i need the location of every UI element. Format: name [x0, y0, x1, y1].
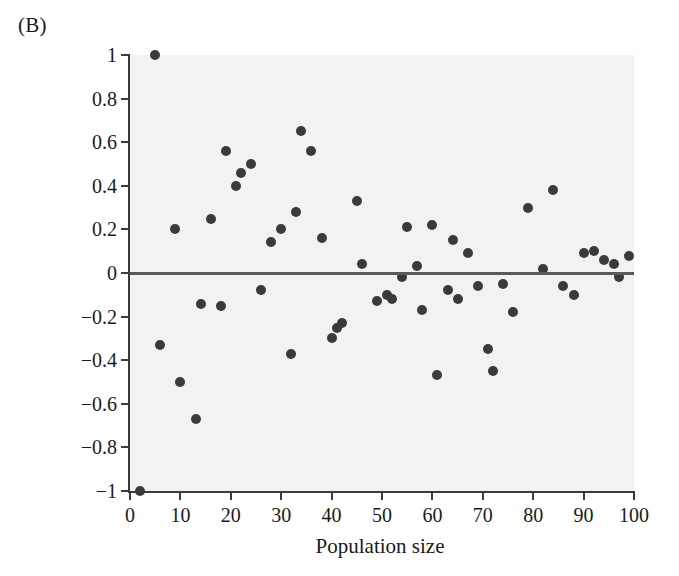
scatter-point [579, 248, 589, 258]
x-axis-tick [532, 491, 534, 500]
scatter-point [352, 196, 362, 206]
scatter-point [256, 285, 266, 295]
x-axis-tick-label: 30 [271, 504, 291, 527]
y-axis-tick-label: 0 [107, 262, 117, 285]
x-axis-tick-label: 50 [372, 504, 392, 527]
scatter-point [387, 294, 397, 304]
y-axis-tick-label: 0.6 [92, 131, 117, 154]
scatter-point [135, 486, 145, 496]
panel-label: (B) [18, 13, 47, 38]
y-axis-tick-label: −0.8 [81, 436, 117, 459]
scatter-point [443, 285, 453, 295]
x-axis-tick [583, 491, 585, 500]
y-axis-tick [121, 185, 130, 187]
x-axis-tick-label: 10 [170, 504, 190, 527]
scatter-point [175, 377, 185, 387]
scatter-point [231, 181, 241, 191]
scatter-point [196, 299, 206, 309]
scatter-point [427, 220, 437, 230]
y-axis-tick-label: −0.6 [81, 392, 117, 415]
scatter-point [306, 146, 316, 156]
scatter-point [266, 237, 276, 247]
scatter-point [483, 344, 493, 354]
plot-area: −1−0.8−0.6−0.4−0.200.20.40.60.8101020304… [128, 55, 634, 493]
scatter-point [402, 222, 412, 232]
x-axis-tick-label: 70 [473, 504, 493, 527]
y-axis-tick [121, 54, 130, 56]
scatter-point [372, 296, 382, 306]
scatter-point [155, 340, 165, 350]
scatter-point [558, 281, 568, 291]
scatter-point [291, 207, 301, 217]
y-axis-tick [121, 141, 130, 143]
y-axis-tick [121, 228, 130, 230]
scatter-point [236, 168, 246, 178]
x-axis-tick-label: 60 [422, 504, 442, 527]
scatter-point [417, 305, 427, 315]
y-axis-tick [121, 446, 130, 448]
scatter-point [276, 224, 286, 234]
scatter-point [589, 246, 599, 256]
scatter-point [523, 203, 533, 213]
scatter-point [453, 294, 463, 304]
x-axis-tick-label: 20 [221, 504, 241, 527]
scatter-point [191, 414, 201, 424]
y-axis-tick [121, 272, 130, 274]
y-axis-tick [121, 98, 130, 100]
scatter-point [412, 261, 422, 271]
scatter-point [327, 333, 337, 343]
y-axis-tick-label: 0.8 [92, 87, 117, 110]
y-axis-tick-label: −0.2 [81, 305, 117, 328]
scatter-point [246, 159, 256, 169]
x-axis-tick [179, 491, 181, 500]
scatter-point [296, 126, 306, 136]
x-axis-tick [633, 491, 635, 500]
scatter-point [599, 255, 609, 265]
scatter-point [498, 279, 508, 289]
y-axis-tick [121, 403, 130, 405]
x-axis-tick-label: 80 [523, 504, 543, 527]
scatter-point [357, 259, 367, 269]
x-axis-tick-label: 0 [125, 504, 135, 527]
y-axis-tick-label: 0.2 [92, 218, 117, 241]
y-axis-tick-label: −1 [96, 480, 117, 503]
zero-reference-line [130, 272, 634, 275]
x-axis-tick [331, 491, 333, 500]
figure-panel-b: (B) −1−0.8−0.6−0.4−0.200.20.40.60.810102… [0, 0, 679, 576]
scatter-point [488, 366, 498, 376]
x-axis-tick [431, 491, 433, 500]
scatter-point [221, 146, 231, 156]
x-axis-tick-label: 100 [619, 504, 649, 527]
scatter-point [206, 214, 216, 224]
x-axis-tick [381, 491, 383, 500]
x-axis-title: Population size [128, 534, 632, 559]
scatter-point [624, 251, 634, 261]
scatter-point [609, 259, 619, 269]
x-axis-tick [230, 491, 232, 500]
x-axis-tick-label: 90 [574, 504, 594, 527]
scatter-point [463, 248, 473, 258]
scatter-point [216, 301, 226, 311]
x-axis-tick [280, 491, 282, 500]
scatter-point [448, 235, 458, 245]
x-axis-tick-label: 40 [322, 504, 342, 527]
scatter-point [286, 349, 296, 359]
scatter-point [170, 224, 180, 234]
scatter-point [569, 290, 579, 300]
scatter-point [150, 50, 160, 60]
scatter-point [473, 281, 483, 291]
y-axis-tick-label: 1 [107, 44, 117, 67]
y-axis-tick-label: 0.4 [92, 174, 117, 197]
x-axis-tick [482, 491, 484, 500]
scatter-point [508, 307, 518, 317]
scatter-point [337, 318, 347, 328]
y-axis-tick [121, 316, 130, 318]
scatter-point [432, 370, 442, 380]
x-axis-tick [129, 491, 131, 500]
scatter-point [548, 185, 558, 195]
scatter-point [317, 233, 327, 243]
y-axis-tick [121, 359, 130, 361]
y-axis-tick-label: −0.4 [81, 349, 117, 372]
